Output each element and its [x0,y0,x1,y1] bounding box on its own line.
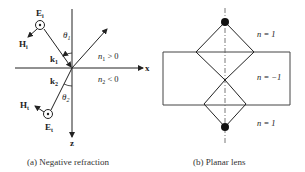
image-point [221,123,229,131]
k1-label: k1 [50,54,58,65]
source-point [221,18,229,26]
x-axis-label: x [145,63,150,73]
incident-e-label: Ei [36,8,44,19]
transmitted-h-arrow [35,106,44,112]
ray-right [225,22,254,127]
upper-medium-label: n1 > 0 [98,51,119,62]
incident-h-label: Hi [19,39,28,50]
caption-a: (a) Negative refraction [27,157,109,167]
region-label-slab: n = −1 [257,72,281,82]
incident-e-field-icon [36,21,45,30]
transmitted-ray [51,68,72,110]
transmitted-e-field-icon [44,110,53,119]
theta2-arc [64,84,72,86]
panel-planar-lens: n = 1 n = −1 n = 1 (b) Planar lens [163,8,290,167]
ray-left [196,22,225,127]
lower-medium-label: n2 < 0 [98,74,119,85]
figure: x z θ1 θ2 Ei Hi k1 k2 [0,0,305,172]
caption-b: (b) Planar lens [193,157,246,167]
region-label-top: n = 1 [257,29,276,39]
incident-h-arrow [28,29,37,37]
theta1-arc [63,53,72,56]
k2-label: k2 [50,76,58,87]
transmitted-h-label: Ht [20,100,29,111]
transmitted-e-label: Et [45,122,53,133]
z-axis-label: z [70,138,74,148]
panel-negative-refraction: x z θ1 θ2 Ei Hi k1 k2 [15,8,150,167]
theta1-label: θ1 [63,30,70,41]
reflected-ray [72,29,107,68]
theta2-label: θ2 [62,92,69,103]
region-label-bottom: n = 1 [257,118,276,128]
